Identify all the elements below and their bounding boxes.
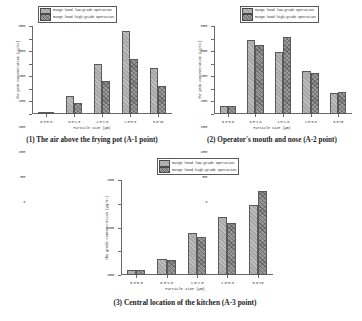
legend-swatch-high-grade: [242, 14, 253, 20]
x-tick-label: 0.5~1.0: [68, 120, 80, 124]
x-tick-label: 2.5~5.0: [124, 120, 136, 124]
x-tick-label: 1.0~2.5: [96, 120, 108, 124]
legend-swatch-low-grade: [159, 160, 170, 167]
y-tick: 500: [29, 101, 32, 102]
y-tick-label: 1000: [201, 150, 207, 154]
y-axis-line: [214, 26, 215, 114]
bar-high-grade: [158, 86, 166, 114]
bar-low-grade: [330, 93, 338, 114]
x-tick: 5.0~10: [338, 114, 339, 117]
bar-high-grade: [258, 191, 267, 275]
x-tick-label: 2.5~5.0: [305, 120, 317, 124]
bar-low-grade: [150, 68, 158, 115]
bar-high-grade: [255, 45, 263, 114]
x-tick: 0.3~0.5: [228, 114, 229, 117]
legend-label: Range hood low-grade operation: [255, 9, 314, 13]
y-tick: 0: [211, 114, 214, 115]
chart-legend: Range hood low-grade operationRange hood…: [38, 6, 117, 23]
x-tick: 0.3~0.5: [46, 114, 47, 117]
bar-high-grade: [283, 37, 291, 114]
figure-caption: (1) The air above the frying pot (A-1 po…: [2, 136, 182, 144]
y-tick: 500: [118, 251, 121, 252]
x-tick: 0.5~1.0: [167, 275, 168, 278]
bar-group: [157, 180, 175, 275]
y-tick: 2500: [29, 51, 32, 52]
bar-group: [330, 26, 347, 114]
figure-caption: (2) Operator's mouth and nose (A-2 point…: [182, 136, 362, 144]
bar-high-grade: [167, 260, 176, 275]
bar-group: [247, 26, 264, 114]
legend-swatch-high-grade: [40, 14, 51, 20]
y-tick: 2000: [29, 64, 32, 65]
y-tick: 2500: [211, 51, 214, 52]
x-tick-label: 1.0~2.5: [191, 281, 204, 285]
y-tick: 500: [211, 101, 214, 102]
bar-low-grade: [94, 64, 102, 114]
bar-group: [66, 26, 83, 114]
y-tick: 3500: [29, 26, 32, 27]
legend-entry: Range hood high-grade operation: [242, 14, 316, 20]
x-tick: 1.0~2.5: [283, 114, 284, 117]
x-tick: 1.0~2.5: [102, 114, 103, 117]
bar-group: [249, 180, 267, 275]
legend-label: Range hood high-grade operation: [172, 168, 236, 172]
bar-group: [127, 180, 145, 275]
x-tick: 2.5~5.0: [227, 275, 228, 278]
x-axis-label: Particle size (μm): [2, 126, 182, 130]
figure-2: Range hood low-grade operationRange hood…: [182, 4, 362, 154]
y-tick: 2000: [211, 64, 214, 65]
y-tick: 1500: [118, 204, 121, 205]
bar-low-grade: [218, 217, 227, 275]
x-tick-label: 0.3~0.5: [40, 120, 52, 124]
y-axis-label: The peak concentration (μg/m³): [198, 41, 202, 100]
x-axis-label: Particle size (μm): [85, 287, 285, 291]
y-tick: 3000: [211, 39, 214, 40]
y-tick-label: 500: [20, 175, 25, 179]
bar-low-grade: [247, 40, 255, 114]
x-tick-label: 0.3~0.5: [222, 120, 234, 124]
x-tick: 0.5~1.0: [255, 114, 256, 117]
y-tick-label: 2000: [107, 178, 114, 182]
y-tick: 1500: [211, 76, 214, 77]
y-tick: 1500: [29, 76, 32, 77]
legend-entry: Range hood low-grade operation: [159, 160, 236, 167]
y-tick: 3500: [211, 26, 214, 27]
bar-group: [188, 180, 206, 275]
y-axis-label: The peak concentration (μg/m³): [16, 41, 20, 100]
bar-high-grade: [227, 223, 236, 275]
figure-1: Range hood low-grade operationRange hood…: [2, 4, 182, 154]
y-tick: 1000: [211, 89, 214, 90]
y-tick: 3000: [29, 39, 32, 40]
bar-high-grade: [74, 103, 82, 114]
x-tick-label: 0.5~1.0: [250, 120, 262, 124]
y-tick-label: 2000: [19, 99, 25, 103]
y-tick: 0: [118, 275, 121, 276]
plot-area: 05001000150020002500300035000.3~0.50.5~1…: [32, 26, 172, 114]
y-tick: 2000: [118, 180, 121, 181]
bar-low-grade: [157, 259, 166, 275]
x-tick-label: 5.0~10: [252, 281, 263, 285]
bar-low-grade: [275, 52, 283, 114]
bar-low-grade: [66, 96, 74, 114]
y-tick-label: 3500: [201, 24, 207, 28]
bar-high-grade: [228, 106, 236, 114]
x-tick: 2.5~5.0: [311, 114, 312, 117]
bar-high-grade: [338, 92, 346, 114]
bar-group: [122, 26, 139, 114]
x-tick-label: 0.3~0.5: [130, 281, 143, 285]
bar-low-grade: [188, 233, 197, 275]
bar-high-grade: [136, 270, 145, 275]
legend-label: Range hood high-grade operation: [255, 16, 316, 20]
y-tick-label: 0: [23, 200, 25, 204]
y-axis-line: [121, 180, 122, 275]
x-tick-label: 5.0~10: [333, 120, 343, 124]
y-axis-line: [32, 26, 33, 114]
x-tick-label: 2.5~5.0: [221, 281, 234, 285]
chart-legend: Range hood low-grade operationRange hood…: [240, 6, 319, 23]
x-tick: 5.0~10: [158, 114, 159, 117]
bar-high-grade: [197, 237, 206, 275]
bar-group: [218, 180, 236, 275]
plot-area: 05001000150020002500300035000.3~0.50.5~1…: [214, 26, 352, 114]
y-tick: 0: [29, 114, 32, 115]
bar-low-grade: [249, 205, 258, 275]
